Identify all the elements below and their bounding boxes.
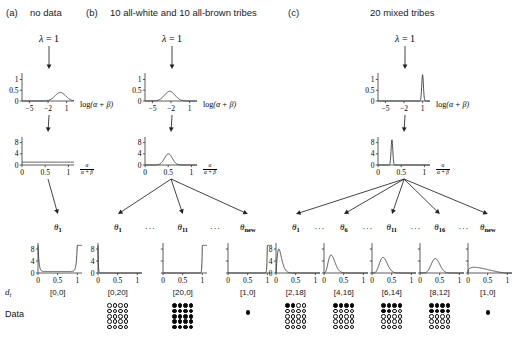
data-dot-empty: [435, 319, 440, 324]
data-dot-empty: [107, 319, 112, 324]
d-label-c-1: [4,16]: [320, 288, 368, 297]
theta-ellipsis-b-1: ···: [205, 223, 225, 233]
distribution-curve: [145, 91, 197, 101]
data-dot-empty: [446, 314, 451, 319]
theta-label-c-4: θnew: [468, 222, 508, 233]
data-dot-empty: [392, 319, 397, 324]
data-dot-empty: [344, 309, 349, 314]
data-dot-empty: [118, 314, 123, 319]
arrow-lambda-to-hyper-c: [399, 40, 411, 75]
distribution-curve: [378, 75, 430, 101]
data-dot-empty: [107, 314, 112, 319]
data-dot-empty: [113, 309, 118, 314]
data-dot-empty: [302, 319, 307, 324]
hyper-plot-a: [22, 73, 104, 123]
data-dot-filled: [172, 309, 177, 314]
data-dot-filled: [172, 314, 177, 319]
hyper-ytick-b-1: 0.5: [122, 86, 142, 95]
data-dot-empty: [339, 314, 344, 319]
plot-axes: [372, 243, 416, 273]
data-dot-filled: [435, 303, 440, 308]
data-dot-filled: [333, 303, 338, 308]
data-dot-empty: [446, 319, 451, 324]
data-dot-empty: [113, 314, 118, 319]
data-dot-empty: [124, 314, 129, 319]
mean-xtick-a-0: 0: [10, 168, 34, 177]
data-dot-empty: [446, 325, 451, 330]
distribution-curve: [420, 259, 464, 273]
data-dot-empty: [296, 303, 301, 308]
data-dot-filled: [291, 303, 296, 308]
data-dot-filled: [344, 303, 349, 308]
data-dot-empty: [302, 314, 307, 319]
data-dot-empty: [392, 314, 397, 319]
data-dot-empty: [429, 319, 434, 324]
data-dot-empty: [291, 314, 296, 319]
data-dot-filled: [178, 314, 183, 319]
row-label-data: Data: [5, 309, 24, 319]
panel-title-c: 20 mixed tribes: [370, 7, 434, 18]
mean-ytick-c-2: 8: [355, 138, 375, 147]
arrow-mean-to-theta-a-0: [42, 173, 64, 220]
theta-label-b-2: θnew: [228, 222, 268, 233]
panel-tag-a: (a): [6, 7, 18, 18]
data-dot-filled: [350, 303, 355, 308]
d-label-c-3: [8,12]: [416, 288, 464, 297]
data-dot-empty: [296, 309, 301, 314]
plot-axes: [98, 243, 142, 273]
data-dot-filled: [387, 309, 392, 314]
arrow-hyper-to-mean-b: [165, 109, 178, 138]
data-dot-empty: [440, 319, 445, 324]
data-dot-empty: [398, 309, 403, 314]
hyper-xtick-a-2: 1: [55, 104, 79, 113]
theta-xtick-c-4-2: 1: [495, 276, 519, 285]
data-dot-empty: [387, 325, 392, 330]
data-dot-empty: [344, 314, 349, 319]
theta-ytick-c-1: 4: [253, 257, 273, 266]
hyper-plot-c: [378, 73, 460, 123]
data-dot-empty: [392, 325, 397, 330]
distribution-curve: [22, 92, 74, 101]
data-dot-empty: [350, 319, 355, 324]
arrow-mean-to-theta-b-2: [165, 173, 254, 220]
figure-canvas: (a)no dataλ = 100.51−5−21log(α + β)04800…: [0, 0, 520, 345]
hyper-xlabel-a: log(α + β): [80, 100, 113, 109]
data-dots-c-2: [381, 303, 403, 330]
data-dots-b-0: [107, 303, 129, 330]
data-dot-filled: [339, 303, 344, 308]
hyper-ytick-a-1: 0.5: [0, 86, 19, 95]
data-dot-filled: [172, 319, 177, 324]
data-dot-empty: [440, 314, 445, 319]
plot-axes: [276, 243, 320, 273]
distribution-curve: [145, 154, 197, 165]
data-dot-empty: [435, 325, 440, 330]
data-dot-empty: [381, 325, 386, 330]
data-dot-filled: [285, 303, 290, 308]
data-dot-empty: [350, 314, 355, 319]
data-dot-empty: [124, 303, 129, 308]
distribution-curve: [372, 257, 416, 273]
theta-ytick-b-1: 4: [75, 257, 95, 266]
arrow-mean-to-theta-c-4: [398, 173, 494, 220]
data-dot-empty: [429, 314, 434, 319]
theta-label-a-0: θ1: [38, 222, 78, 233]
data-dot-filled: [183, 319, 188, 324]
data-dot-filled: [189, 303, 194, 308]
data-dot-filled: [178, 319, 183, 324]
data-dot-empty: [302, 309, 307, 314]
data-dot-filled: [178, 309, 183, 314]
data-dot-filled: [429, 303, 434, 308]
data-dot-empty: [339, 309, 344, 314]
data-dots-c-3: [429, 303, 451, 330]
theta-ellipsis-c-3: ···: [454, 223, 474, 233]
data-dot-empty: [124, 325, 129, 330]
mean-ytick-b-1: 4: [122, 149, 142, 158]
data-dot-filled: [172, 325, 177, 330]
hyper-ytick-a-2: 1: [0, 75, 19, 84]
data-dot-filled: [381, 309, 386, 314]
hyper-ytick-b-2: 1: [122, 75, 142, 84]
distribution-curve: [98, 245, 142, 273]
data-dot-filled: [392, 303, 397, 308]
mean-xlabel-a: αα + β: [80, 163, 94, 176]
data-dot-empty: [113, 325, 118, 330]
